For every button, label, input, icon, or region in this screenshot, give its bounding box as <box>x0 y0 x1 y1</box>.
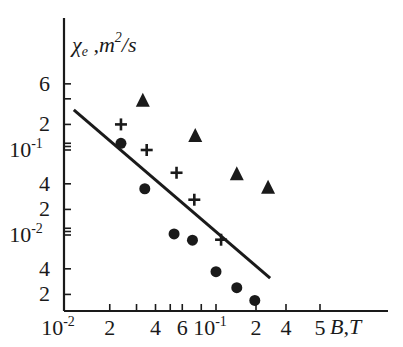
circle-point <box>139 183 150 194</box>
y-tick-exponent: -1 <box>31 136 43 151</box>
y-label-superscript: 2 <box>115 30 122 45</box>
x-tick-label: 2 <box>104 315 115 340</box>
y-tick-label: 2 <box>39 281 50 306</box>
y-tick-label: 2 <box>39 111 50 136</box>
y-tick-label: 2 <box>39 196 50 221</box>
y-tick-exponent: -2 <box>31 221 43 236</box>
circle-point <box>169 228 180 239</box>
x-tick-label: 10-1 <box>193 314 227 340</box>
triangle-point <box>188 128 202 142</box>
x-tick-label: 5 <box>315 315 326 340</box>
circle-point <box>231 282 242 293</box>
axes <box>64 18 388 311</box>
triangle-point <box>230 166 244 180</box>
circle-point <box>211 266 222 277</box>
y-tick-label: 4 <box>39 256 50 281</box>
x-tick-label: 10-2 <box>41 314 75 340</box>
data-marks <box>74 93 275 306</box>
y-tick-label: 10-2 <box>9 221 43 247</box>
circle-point <box>187 235 198 246</box>
plus-point <box>141 144 153 156</box>
x-tick-exponent: -2 <box>63 314 75 329</box>
plus-point <box>171 167 183 179</box>
y-tick-label: 6 <box>39 71 50 96</box>
x-tick-label: 2 <box>251 315 262 340</box>
circle-point <box>249 295 260 306</box>
x-tick-label: 6 <box>177 315 188 340</box>
chart: 10-224610-12456210-14210-242 χe ,m2/s B,… <box>0 0 403 347</box>
fit-line <box>74 110 270 278</box>
y-label-unit-tail: /s <box>120 32 137 57</box>
triangle-point <box>261 180 275 194</box>
triangle-point <box>136 93 150 107</box>
x-tick-label: 4 <box>150 315 161 340</box>
ticks: 10-224610-12456210-14210-242 <box>9 71 325 340</box>
x-tick-exponent: -1 <box>215 314 227 329</box>
y-label-unit: ,m <box>88 32 115 57</box>
plus-point <box>188 194 200 206</box>
y-tick-label: 10-1 <box>9 136 43 162</box>
plus-point <box>115 118 127 130</box>
x-tick-label: 4 <box>281 315 292 340</box>
y-tick-label: 4 <box>39 171 50 196</box>
x-axis-label: B,T <box>330 314 363 339</box>
y-axis-label: χe ,m2/s <box>70 30 136 59</box>
